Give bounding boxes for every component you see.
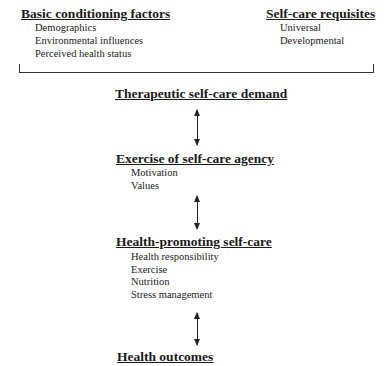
requisite-item: Developmental (280, 35, 344, 47)
requisite-item: Universal (280, 22, 321, 34)
therapeutic-self-care-demand-heading: Therapeutic self-care demand (115, 86, 287, 101)
self-care-requisites-heading: Self-care requisites (266, 6, 375, 21)
basic-conditioning-factors-heading: Basic conditioning factors (21, 6, 170, 21)
promoting-item: Health responsibility (131, 251, 219, 263)
health-promoting-self-care-heading: Health-promoting self-care (116, 234, 272, 249)
factor-item: Demographics (35, 22, 96, 34)
agency-item: Motivation (131, 167, 178, 179)
promoting-item: Stress management (131, 289, 212, 301)
exercise-of-self-care-agency-heading: Exercise of self-care agency (116, 151, 274, 166)
factor-item: Environmental influences (35, 35, 143, 47)
double-arrow-icon (197, 110, 198, 145)
agency-item: Values (131, 180, 159, 192)
grouping-bracket (19, 64, 374, 73)
double-arrow-icon (197, 196, 198, 229)
health-outcomes-heading: Health outcomes (117, 349, 213, 364)
double-arrow-icon (197, 313, 198, 345)
promoting-item: Nutrition (131, 276, 170, 288)
factor-item: Perceived health status (35, 48, 131, 60)
promoting-item: Exercise (131, 264, 167, 276)
